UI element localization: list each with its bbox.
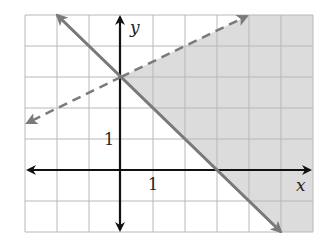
x-axis-label: x [296, 175, 306, 195]
y-axis-label: y [129, 17, 140, 37]
y-tick-label-1: 1 [104, 130, 114, 149]
x-tick-label-1: 1 [148, 175, 158, 194]
graph: y x 1 1 [0, 0, 335, 233]
